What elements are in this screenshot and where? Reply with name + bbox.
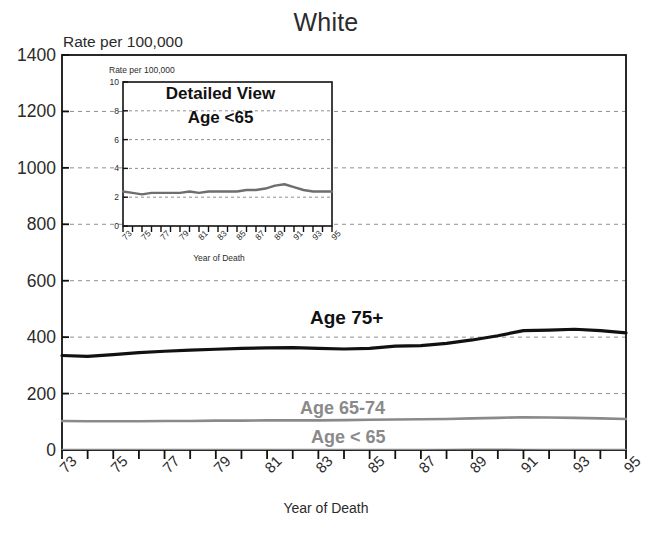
series-label-age-75-plus: Age 75+ [310,307,383,329]
inset-y-tick-label: 4 [99,163,119,173]
inset-title-line1: Detailed View [128,84,313,104]
series-line-age-75-plus [62,329,626,356]
figure-root: White Rate per 100,000 Year of Death 020… [0,0,652,538]
inset-y-tick-label: 2 [99,192,119,202]
inset-y-tick-label: 0 [99,221,119,231]
inset-title-line2: Age <65 [128,108,313,128]
inset-y-tick-label: 10 [99,77,119,87]
series-label-age-65-74: Age 65-74 [300,398,385,419]
inset-y-tick-label: 6 [99,135,119,145]
plot-area [0,0,652,538]
inset-x-axis-label: Year of Death [103,253,335,263]
series-label-age-under-65: Age < 65 [311,427,386,448]
inset-y-tick-label: 8 [99,106,119,116]
inset-y-axis-label: Rate per 100,000 [109,65,175,75]
